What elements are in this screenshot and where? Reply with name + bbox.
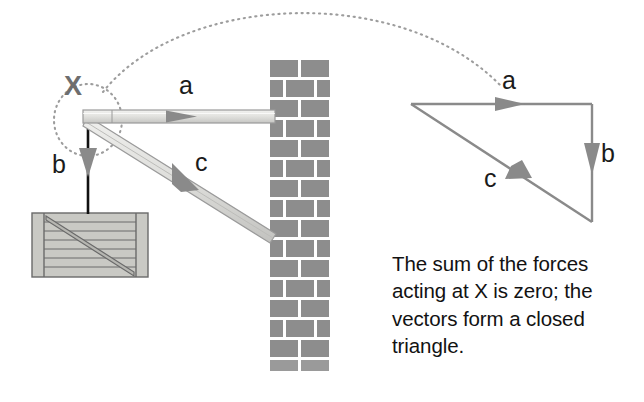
- brick-wall: [270, 60, 330, 371]
- caption-line: acting at X is zero; the: [392, 277, 636, 304]
- vector-label-c-main: c: [195, 150, 208, 175]
- force-triangle: [411, 97, 600, 222]
- vector-label-b-triangle: b: [601, 141, 615, 166]
- vector-label-b-main: b: [52, 152, 66, 177]
- figure-caption: The sum of the forces acting at X is zer…: [392, 250, 636, 359]
- caption-line: The sum of the forces: [392, 250, 636, 277]
- caption-line: triangle.: [392, 332, 636, 359]
- vector-label-a-triangle: a: [502, 68, 516, 93]
- vector-label-c-triangle: c: [484, 166, 497, 191]
- arrowhead-a-triangle: [495, 97, 525, 111]
- wooden-crate: [32, 213, 148, 277]
- horizontal-beam-member-a: [83, 110, 275, 123]
- arrowhead-b-triangle: [584, 143, 600, 175]
- caption-line: vectors form a closed: [392, 305, 636, 332]
- point-label-x: X: [64, 73, 82, 100]
- arrowhead-b-main: [79, 148, 97, 177]
- arrowhead-c-triangle: [505, 160, 532, 179]
- triangle-side-c: [411, 104, 592, 222]
- figure-canvas: X a c b a b c The sum of the forces acti…: [0, 0, 644, 402]
- vector-label-a-main: a: [179, 73, 193, 98]
